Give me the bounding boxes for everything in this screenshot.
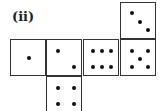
die-face-one bbox=[10, 39, 46, 76]
pip bbox=[91, 65, 95, 69]
pip bbox=[72, 65, 76, 69]
pip bbox=[138, 20, 142, 24]
figure-label: (ii) bbox=[12, 9, 34, 24]
pip bbox=[72, 86, 76, 90]
pip bbox=[27, 56, 31, 60]
pip bbox=[109, 49, 113, 53]
die-face-three bbox=[120, 2, 156, 39]
pip bbox=[56, 49, 60, 53]
pip bbox=[109, 65, 113, 69]
pip bbox=[146, 28, 150, 32]
pip bbox=[100, 49, 104, 53]
pip bbox=[56, 102, 60, 106]
die-face-six bbox=[83, 39, 119, 76]
die-face-two bbox=[46, 39, 82, 76]
pip bbox=[130, 65, 134, 69]
pip bbox=[130, 49, 134, 53]
pip bbox=[72, 102, 76, 106]
pip bbox=[138, 57, 142, 61]
pip bbox=[146, 65, 150, 69]
die-face-five bbox=[120, 39, 156, 76]
pip bbox=[91, 49, 95, 53]
pip bbox=[100, 65, 104, 69]
pip bbox=[56, 86, 60, 90]
pip bbox=[146, 49, 150, 53]
pip bbox=[130, 11, 134, 15]
die-face-four bbox=[46, 76, 82, 111]
